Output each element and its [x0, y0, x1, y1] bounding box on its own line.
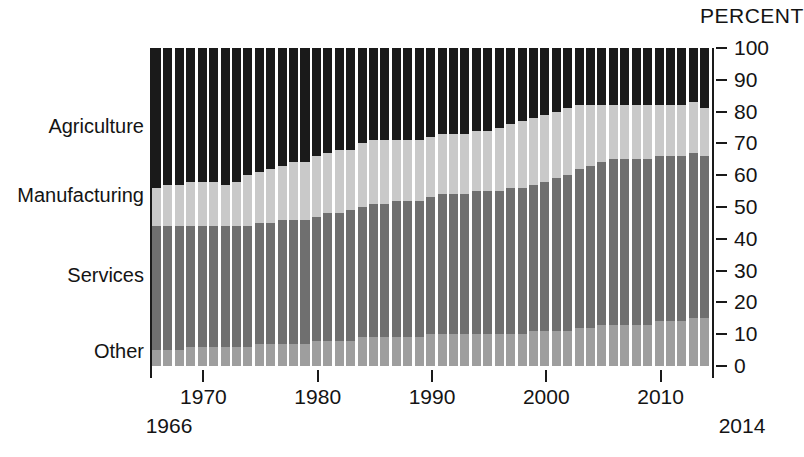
bar-slot[interactable] [655, 48, 666, 366]
bar-slot[interactable] [415, 48, 426, 366]
stacked-bar[interactable] [266, 48, 275, 366]
bar-slot[interactable] [198, 48, 209, 366]
stacked-bar[interactable] [323, 48, 332, 366]
stacked-bar[interactable] [300, 48, 309, 366]
bar-slot[interactable] [232, 48, 243, 366]
stacked-bar[interactable] [609, 48, 618, 366]
stacked-bar[interactable] [163, 48, 172, 366]
bar-slot[interactable] [255, 48, 266, 366]
stacked-bar[interactable] [243, 48, 252, 366]
stacked-bar[interactable] [221, 48, 230, 366]
stacked-bar[interactable] [643, 48, 652, 366]
bar-slot[interactable] [666, 48, 677, 366]
bar-slot[interactable] [483, 48, 494, 366]
bar-slot[interactable] [438, 48, 449, 366]
stacked-bar[interactable] [495, 48, 504, 366]
stacked-bar[interactable] [586, 48, 595, 366]
bar-slot[interactable] [426, 48, 437, 366]
stacked-bar[interactable] [540, 48, 549, 366]
stacked-bar[interactable] [666, 48, 675, 366]
stacked-bar[interactable] [278, 48, 287, 366]
bar-slot[interactable] [449, 48, 460, 366]
stacked-bar[interactable] [506, 48, 515, 366]
stacked-bar[interactable] [255, 48, 264, 366]
bar-slot[interactable] [620, 48, 631, 366]
bar-slot[interactable] [152, 48, 163, 366]
bar-slot[interactable] [335, 48, 346, 366]
bar-slot[interactable] [609, 48, 620, 366]
bar-slot[interactable] [597, 48, 608, 366]
stacked-bar[interactable] [632, 48, 641, 366]
bar-slot[interactable] [369, 48, 380, 366]
stacked-bar[interactable] [449, 48, 458, 366]
stacked-bar[interactable] [232, 48, 241, 366]
stacked-bar[interactable] [483, 48, 492, 366]
bar-slot[interactable] [266, 48, 277, 366]
bar-slot[interactable] [552, 48, 563, 366]
stacked-bar[interactable] [689, 48, 698, 366]
stacked-bar[interactable] [175, 48, 184, 366]
stacked-bar[interactable] [186, 48, 195, 366]
bar-slot[interactable] [175, 48, 186, 366]
bar-slot[interactable] [403, 48, 414, 366]
stacked-bar[interactable] [209, 48, 218, 366]
stacked-bar[interactable] [152, 48, 161, 366]
stacked-bar[interactable] [438, 48, 447, 366]
stacked-bar[interactable] [620, 48, 629, 366]
bar-slot[interactable] [186, 48, 197, 366]
stacked-bar[interactable] [597, 48, 606, 366]
bar-slot[interactable] [346, 48, 357, 366]
bar-slot[interactable] [495, 48, 506, 366]
bar-slot[interactable] [209, 48, 220, 366]
stacked-bar[interactable] [358, 48, 367, 366]
stacked-bar[interactable] [700, 48, 709, 366]
bar-slot[interactable] [632, 48, 643, 366]
bar-slot[interactable] [506, 48, 517, 366]
bar-slot[interactable] [540, 48, 551, 366]
stacked-bar[interactable] [529, 48, 538, 366]
stacked-bar[interactable] [552, 48, 561, 366]
stacked-bar[interactable] [289, 48, 298, 366]
bar-slot[interactable] [677, 48, 688, 366]
stacked-bar[interactable] [415, 48, 424, 366]
bar-slot[interactable] [392, 48, 403, 366]
stacked-bar[interactable] [426, 48, 435, 366]
stacked-bar[interactable] [563, 48, 572, 366]
stacked-bar[interactable] [369, 48, 378, 366]
bar-slot[interactable] [300, 48, 311, 366]
stacked-bar[interactable] [198, 48, 207, 366]
bar-slot[interactable] [472, 48, 483, 366]
stacked-bar[interactable] [346, 48, 355, 366]
bar-slot[interactable] [380, 48, 391, 366]
stacked-bar[interactable] [677, 48, 686, 366]
stacked-bar[interactable] [518, 48, 527, 366]
stacked-bar[interactable] [460, 48, 469, 366]
bar-slot[interactable] [689, 48, 700, 366]
bar-slot[interactable] [163, 48, 174, 366]
bar-slot[interactable] [221, 48, 232, 366]
bar-slot[interactable] [643, 48, 654, 366]
stacked-bar[interactable] [380, 48, 389, 366]
bar-slot[interactable] [323, 48, 334, 366]
bar-slot[interactable] [586, 48, 597, 366]
stacked-bar[interactable] [472, 48, 481, 366]
stacked-bar[interactable] [655, 48, 664, 366]
bar-slot[interactable] [312, 48, 323, 366]
stacked-bar[interactable] [312, 48, 321, 366]
stacked-bar[interactable] [335, 48, 344, 366]
bar-segment-services [495, 191, 504, 334]
bar-slot[interactable] [278, 48, 289, 366]
stacked-bar[interactable] [403, 48, 412, 366]
bar-slot[interactable] [358, 48, 369, 366]
stacked-bar[interactable] [575, 48, 584, 366]
bar-slot[interactable] [529, 48, 540, 366]
bar-slot[interactable] [518, 48, 529, 366]
bar-slot[interactable] [700, 48, 711, 366]
bar-slot[interactable] [575, 48, 586, 366]
stacked-bar[interactable] [392, 48, 401, 366]
bar-slot[interactable] [243, 48, 254, 366]
bar-slot[interactable] [289, 48, 300, 366]
tick-dash-icon [716, 365, 727, 367]
bar-slot[interactable] [460, 48, 471, 366]
bar-slot[interactable] [563, 48, 574, 366]
